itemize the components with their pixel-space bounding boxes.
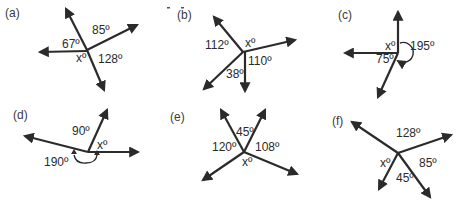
ray-arrow-icon [203,152,244,180]
diagram-f: (f) 128º xº 85º 45º [332,114,451,197]
angle-label: 190º [44,155,69,169]
diagram-label: (e) [170,110,185,124]
angle-label: xº [76,51,87,65]
diagram-label: (b) [177,8,192,22]
angle-label: 120º [212,140,237,154]
diagram-c: (c) xº 195º 75º [338,8,435,97]
reflex-arc-icon [74,155,97,163]
diagram-label: (c) [338,8,352,22]
diagram-d: (d) 90º xº 190º [13,108,138,169]
diagram-label: (a) [5,6,20,20]
angle-label: xº [97,138,108,152]
diagram-label: (d) [13,108,28,122]
angle-label: 110º [248,54,272,68]
angle-label: 128º [98,52,123,66]
angle-diagrams-canvas: (a) 85º 67º xº 128º (b) 112º xº 110º 38º… [0,0,459,204]
angle-label: xº [380,156,391,170]
diagram-a: (a) 85º 67º xº 128º [5,6,137,90]
angle-label: 45º [396,171,414,185]
angle-label: xº [385,39,396,53]
angle-label: 67º [62,37,80,51]
angle-label: 75º [376,52,394,66]
angle-label: 112º [205,38,229,52]
angle-label: 85º [92,23,110,37]
ray-arrow-icon [25,136,88,152]
angle-label: xº [242,155,253,169]
angle-label: xº [245,36,256,50]
angle-label: 45º [236,125,254,139]
angle-label: 85º [419,156,437,170]
diagram-b: (b) 112º xº 110º 38º [177,8,295,91]
angle-label: 128º [396,126,421,140]
diagram-e: (e) 45º 120º 108º xº [170,110,297,180]
ray-arrow-icon [352,122,398,153]
angle-label: 108º [255,140,280,154]
diagram-label: (f) [332,114,343,128]
angle-label: 195º [410,39,435,53]
angle-label: 38º [226,67,244,81]
angle-label: 90º [72,124,90,138]
